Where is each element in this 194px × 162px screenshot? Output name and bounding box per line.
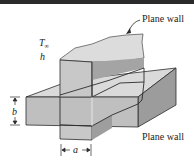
top-plane-wall-label: Plane wall [142,13,184,24]
a-label: a [73,144,78,155]
leader-arrowhead [126,28,131,34]
plane-wall-intersection-diagram: Plane wall Plane wall T∞ h b a [0,0,194,162]
h-label: h [40,51,45,62]
b-label: b [12,106,17,117]
bottom-plane-wall-label: Plane wall [142,131,184,142]
t-infinity-label: T∞ [39,37,50,49]
